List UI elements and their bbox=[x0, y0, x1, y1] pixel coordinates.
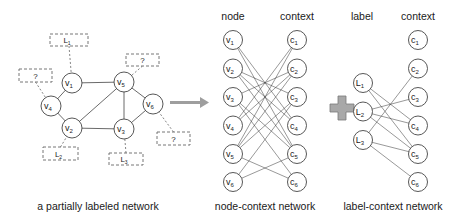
header-node: node bbox=[221, 10, 245, 22]
label-box-v1: L1 bbox=[50, 34, 88, 46]
right-node-c4: c4 bbox=[409, 116, 428, 135]
plus-icon bbox=[330, 96, 354, 120]
node-v3: v3 bbox=[114, 119, 134, 139]
left-node-v4: v4 bbox=[224, 116, 243, 135]
right-node-c3: c3 bbox=[409, 88, 428, 107]
header-context-nc: context bbox=[280, 10, 314, 22]
caption-node-context: node-context network bbox=[215, 200, 316, 212]
left-node-v2: v2 bbox=[224, 59, 243, 78]
header-context-lc: context bbox=[401, 10, 435, 22]
right-node-c1: c1 bbox=[288, 31, 307, 50]
bipartite-edge bbox=[363, 140, 418, 182]
node-v2: v2 bbox=[62, 118, 82, 138]
left-node-v3: v3 bbox=[224, 88, 243, 107]
node-v6: v6 bbox=[143, 94, 163, 114]
svg-text:?: ? bbox=[33, 72, 38, 81]
right-node-c2: c2 bbox=[288, 59, 307, 78]
label-box-v6: ? bbox=[157, 132, 190, 145]
label-box-v3: L3 bbox=[109, 153, 143, 165]
right-node-c5: c5 bbox=[409, 145, 428, 164]
right-node-c4: c4 bbox=[288, 116, 307, 135]
caption-label-context: label-context network bbox=[343, 200, 443, 212]
node-context-network: v1v2v3v4v5v6c1c2c3c4c5c6 bbox=[224, 31, 307, 192]
svg-text:?: ? bbox=[171, 135, 176, 144]
right-node-c6: c6 bbox=[409, 173, 428, 192]
left-node-v6: v6 bbox=[224, 173, 243, 192]
node-v4: v4 bbox=[41, 96, 61, 116]
right-node-c6: c6 bbox=[288, 173, 307, 192]
left-node-L2: L2 bbox=[354, 102, 373, 121]
right-node-c3: c3 bbox=[288, 88, 307, 107]
label-box-v5: ? bbox=[126, 54, 159, 66]
left-node-L1: L1 bbox=[354, 74, 373, 93]
right-node-c2: c2 bbox=[409, 59, 428, 78]
diagram-canvas: L1???L2L3v1v2v3v4v5v6 v1v2v3v4v5v6c1c2c3… bbox=[0, 0, 460, 223]
left-node-v1: v1 bbox=[224, 31, 243, 50]
label-context-network: L1L2L3c1c2c3c4c5c6 bbox=[354, 31, 428, 192]
arrow-icon bbox=[170, 97, 209, 108]
label-box-v4: ? bbox=[19, 69, 52, 82]
right-node-c5: c5 bbox=[288, 145, 307, 164]
caption-partial-network: a partially labeled network bbox=[37, 200, 159, 212]
left-node-v5: v5 bbox=[224, 145, 243, 164]
bipartite-edge bbox=[363, 112, 418, 155]
node-v5: v5 bbox=[114, 72, 134, 92]
header-label: label bbox=[351, 10, 373, 22]
label-box-v2: L2 bbox=[43, 147, 78, 160]
node-v1: v1 bbox=[62, 73, 82, 93]
right-node-c1: c1 bbox=[409, 31, 428, 50]
left-node-L3: L3 bbox=[354, 131, 373, 150]
partially-labeled-network: L1???L2L3v1v2v3v4v5v6 bbox=[19, 34, 190, 165]
svg-text:?: ? bbox=[140, 56, 145, 65]
